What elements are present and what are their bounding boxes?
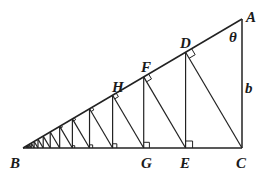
- angle-theta-label: θ: [229, 29, 237, 45]
- perpendicular-to-hypotenuse: [43, 136, 50, 148]
- right-angle-mark: [144, 142, 150, 148]
- perpendicular-to-hypotenuse: [113, 95, 144, 148]
- perpendicular-to-hypotenuse: [144, 77, 186, 148]
- perpendicular-to-hypotenuse: [72, 119, 89, 148]
- label-c: C: [236, 155, 247, 171]
- perpendicular-to-hypotenuse: [90, 109, 113, 148]
- perpendicular-to-hypotenuse: [186, 52, 242, 148]
- label-a: A: [245, 9, 256, 25]
- geometry-diagram: A B C D E F G H θ b: [0, 0, 267, 175]
- perpendicular-lines: [26, 49, 242, 148]
- label-d: D: [179, 35, 191, 51]
- label-h: H: [111, 79, 125, 95]
- perpendicular-to-hypotenuse: [60, 126, 73, 148]
- right-angle-mark: [186, 141, 193, 148]
- side-b-label: b: [245, 80, 253, 96]
- label-b: B: [9, 155, 20, 171]
- label-f: F: [140, 59, 151, 75]
- label-e: E: [179, 155, 190, 171]
- label-g: G: [141, 155, 152, 171]
- perpendicular-to-hypotenuse: [50, 132, 59, 148]
- perpendicular-to-hypotenuse: [38, 139, 43, 148]
